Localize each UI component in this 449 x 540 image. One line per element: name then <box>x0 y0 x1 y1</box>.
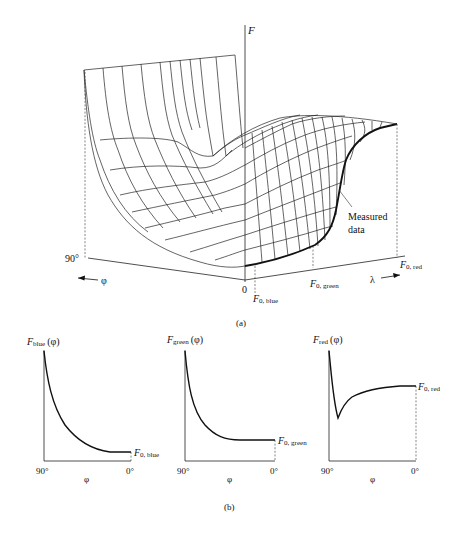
phi-axis-label: φ <box>101 275 107 286</box>
f0-red-label: F0, red <box>399 259 423 271</box>
lambda-arrow-icon <box>381 273 400 278</box>
lambda-axis-label: λ <box>370 274 375 285</box>
panel-a-surface <box>84 55 397 267</box>
plot-green-x-label: φ <box>227 474 232 484</box>
plot-green-title: Fgreen(φ) <box>166 334 203 346</box>
panel-a-labels: F 90° φ λ 0 F0, blue F0, green F0, red M… <box>65 24 423 328</box>
phi-arrow-icon <box>78 276 98 281</box>
plot-blue-title: Fblue(φ) <box>26 336 60 348</box>
plot-red-title: Fred(φ) <box>312 334 343 346</box>
panel-b-caption: (b) <box>224 502 235 512</box>
annotation-leader <box>339 190 352 207</box>
plot-green-x-left: 90° <box>177 466 190 476</box>
measured-data-label-line1: Measured <box>348 211 387 222</box>
phi-90-label: 90° <box>65 253 79 264</box>
plot-blue-curve <box>44 351 131 452</box>
plot-red-curve <box>329 351 416 418</box>
trough-mesh <box>100 138 245 260</box>
plot-red: Fred(φ) F0, red 90° 0° φ <box>312 334 441 484</box>
f0-green-label: F0, green <box>309 278 339 290</box>
f0-blue-label: F0, blue <box>252 293 278 305</box>
measured-data-label-line2: data <box>348 224 365 235</box>
plot-green-end-label: F0, green <box>277 435 307 447</box>
panel-a-axes <box>78 25 405 293</box>
plot-blue: Fblue(φ) F0, blue 90° 0° φ <box>26 336 159 484</box>
plot-blue-x-left: 90° <box>36 466 49 476</box>
plot-blue-x-label: φ <box>84 474 89 484</box>
right-mesh-lambda <box>213 115 365 250</box>
f-axis-label: F <box>247 24 255 36</box>
plot-blue-x-right: 0° <box>126 466 135 476</box>
origin-label: 0 <box>242 284 247 295</box>
plot-red-end-label: F0, red <box>417 381 441 393</box>
measured-data-curve <box>245 124 397 266</box>
figure-canvas: F 90° φ λ 0 F0, blue F0, green F0, red M… <box>0 0 449 540</box>
phi-axis <box>88 258 245 280</box>
plot-green-curve <box>185 351 275 440</box>
plot-red-x-right: 0° <box>411 466 420 476</box>
plot-green-x-right: 0° <box>270 466 279 476</box>
plot-green: Fgreen(φ) F0, green 90° 0° φ <box>166 334 307 484</box>
plot-red-x-left: 90° <box>321 466 334 476</box>
plot-red-x-label: φ <box>370 474 375 484</box>
left-edge-curve <box>84 70 245 267</box>
panel-a-caption: (a) <box>236 318 246 328</box>
lambda-axis <box>245 256 405 280</box>
plot-blue-end-label: F0, blue <box>133 447 159 459</box>
